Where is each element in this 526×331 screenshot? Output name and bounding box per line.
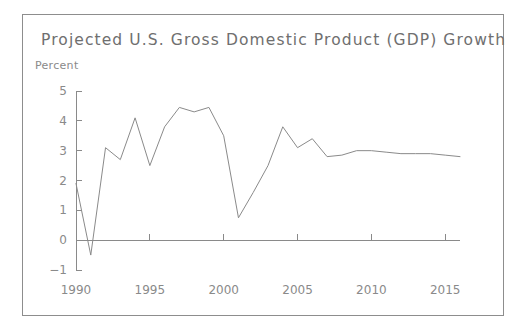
- y-tick-label: 2: [59, 174, 67, 188]
- y-tick-label: 4: [59, 114, 67, 128]
- y-tick-label: 5: [59, 84, 67, 98]
- x-tick-label: 2015: [430, 283, 461, 297]
- y-axis: −1012345: [49, 84, 82, 277]
- y-tick-label: 0: [59, 233, 67, 247]
- x-tick-label: 1995: [135, 283, 166, 297]
- y-tick-label: 1: [59, 203, 67, 217]
- x-tick-label: 2005: [282, 283, 313, 297]
- gdp-growth-line-chart: −1012345 199019952000200520102015: [23, 15, 505, 317]
- x-tick-label: 2000: [208, 283, 239, 297]
- x-tick-label: 2010: [356, 283, 387, 297]
- y-tick-label: −1: [49, 263, 67, 277]
- x-tick-label: 1990: [61, 283, 92, 297]
- data-series-gdp-growth: [76, 107, 460, 255]
- y-tick-label: 3: [59, 144, 67, 158]
- chart-card: Projected U.S. Gross Domestic Product (G…: [22, 14, 504, 316]
- gdp-growth-line: [76, 107, 460, 255]
- x-axis: 199019952000200520102015: [61, 234, 461, 297]
